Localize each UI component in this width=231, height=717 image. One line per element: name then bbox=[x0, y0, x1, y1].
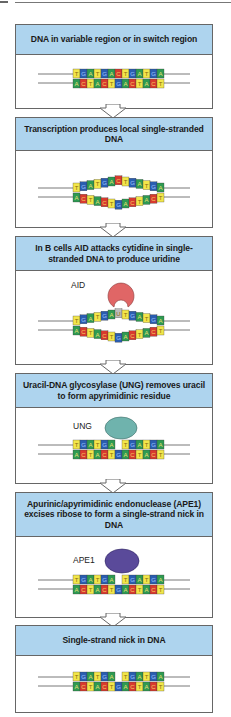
base-letter: T bbox=[124, 577, 128, 583]
base-letter: C bbox=[102, 333, 107, 339]
base-letter: A bbox=[123, 587, 127, 593]
down-arrow-3 bbox=[100, 360, 126, 374]
base-letter: A bbox=[95, 332, 99, 338]
base-letter: A bbox=[137, 442, 141, 448]
base-letter: C bbox=[130, 452, 135, 458]
base-letter: G bbox=[102, 674, 107, 680]
base-letter: T bbox=[124, 179, 128, 185]
base-letter: A bbox=[74, 587, 78, 593]
base-letter: G bbox=[102, 313, 107, 319]
step-3-title: In B cells AID attacks cytidine in singl… bbox=[16, 237, 212, 271]
base-letter: T bbox=[75, 318, 79, 324]
base-letter: T bbox=[110, 334, 114, 340]
base-letter: T bbox=[89, 197, 93, 203]
base-letter: C bbox=[81, 329, 86, 335]
base-letter: G bbox=[116, 684, 121, 690]
base-letter: T bbox=[159, 328, 163, 334]
base-letter: A bbox=[74, 684, 78, 690]
base-letter: T bbox=[75, 577, 79, 583]
base-letter: G bbox=[81, 577, 86, 583]
base-letter: A bbox=[158, 577, 162, 583]
base-letter: T bbox=[145, 674, 149, 680]
base-letter: C bbox=[81, 452, 86, 458]
dna-ape1-nick: TAGCATTAGCATGTAGCATTAGCAT bbox=[16, 537, 212, 617]
step-3-panel: In B cells AID attacks cytidine in singl… bbox=[15, 236, 213, 365]
base-letter: T bbox=[96, 181, 100, 187]
base-letter: T bbox=[96, 442, 100, 448]
base-letter: A bbox=[88, 316, 92, 322]
base-letter: T bbox=[145, 183, 149, 189]
base-letter: A bbox=[137, 181, 141, 187]
base-letter: A bbox=[144, 197, 148, 203]
base-letter: G bbox=[81, 317, 86, 323]
base-letter: T bbox=[159, 452, 163, 458]
base-letter: C bbox=[151, 329, 156, 335]
base-letter: A bbox=[144, 684, 148, 690]
base-letter: A bbox=[109, 71, 113, 77]
base-letter: G bbox=[151, 442, 156, 448]
base-letter: A bbox=[109, 577, 113, 583]
base-letter: A bbox=[158, 674, 162, 680]
base-letter: T bbox=[96, 674, 100, 680]
dna-aid-attack: TAGCATTAGCATUGTAGCATTAGCAT bbox=[16, 271, 212, 364]
base-letter: U bbox=[116, 311, 120, 317]
base-letter: G bbox=[102, 577, 107, 583]
base-letter: A bbox=[144, 587, 148, 593]
base-letter: C bbox=[102, 684, 107, 690]
base-letter: A bbox=[123, 684, 127, 690]
base-letter: G bbox=[102, 442, 107, 448]
base-letter: A bbox=[88, 183, 92, 189]
base-letter: C bbox=[102, 587, 107, 593]
base-letter: A bbox=[109, 179, 113, 185]
base-letter: A bbox=[95, 81, 99, 87]
step-6-title: Single-strand nick in DNA bbox=[16, 626, 212, 656]
base-letter: C bbox=[151, 452, 156, 458]
base-letter: C bbox=[151, 587, 156, 593]
step-1-dna: TAGCATTAGCATCGTAGCATTAGCAT bbox=[16, 55, 212, 108]
base-letter: C bbox=[151, 684, 156, 690]
base-letter: T bbox=[89, 81, 93, 87]
step-1-title: DNA in variable region or in switch regi… bbox=[16, 25, 212, 55]
base-letter: T bbox=[159, 81, 163, 87]
base-letter: T bbox=[145, 577, 149, 583]
base-letter: G bbox=[81, 442, 86, 448]
base-letter: C bbox=[81, 684, 86, 690]
base-letter: T bbox=[145, 442, 149, 448]
base-letter: A bbox=[123, 452, 127, 458]
base-letter: C bbox=[130, 684, 135, 690]
dna-transcription-bubble: TAGCATTAGCATCGTAGCATTAGCAT bbox=[16, 151, 212, 227]
base-letter: T bbox=[110, 81, 114, 87]
base-letter: C bbox=[130, 587, 135, 593]
dna-single-strand-nick: TAGCATTAGCATGTAGCATTAGCAT bbox=[16, 656, 212, 712]
base-letter: T bbox=[159, 195, 163, 201]
base-letter: G bbox=[81, 184, 86, 190]
base-letter: A bbox=[88, 674, 92, 680]
base-letter: G bbox=[102, 71, 107, 77]
base-letter: G bbox=[151, 71, 156, 77]
base-letter: G bbox=[151, 317, 156, 323]
base-letter: G bbox=[116, 202, 121, 208]
step-4-dna: UNG TAGCATTAGCATGTAGCATTAGCAT bbox=[16, 408, 212, 483]
base-letter: A bbox=[95, 452, 99, 458]
base-letter: G bbox=[151, 674, 156, 680]
base-letter: G bbox=[130, 674, 135, 680]
step-5-dna: APE1 TAGCATTAGCATGTAGCATTAGCAT bbox=[16, 537, 212, 617]
base-letter: A bbox=[137, 314, 141, 320]
base-letter: G bbox=[130, 71, 135, 77]
base-letter: A bbox=[123, 334, 127, 340]
base-letter: G bbox=[151, 577, 156, 583]
base-letter: G bbox=[102, 180, 107, 186]
base-letter: A bbox=[88, 577, 92, 583]
base-letter: A bbox=[74, 81, 78, 87]
base-letter: T bbox=[75, 71, 79, 77]
base-letter: C bbox=[102, 81, 107, 87]
base-letter: C bbox=[81, 587, 86, 593]
base-letter: G bbox=[130, 577, 135, 583]
base-letter: T bbox=[75, 185, 79, 191]
base-letter: G bbox=[116, 335, 121, 341]
base-letter: T bbox=[110, 452, 114, 458]
step-4-title: Uracil-DNA glycosylase (UNG) removes ura… bbox=[16, 374, 212, 408]
base-letter: G bbox=[130, 313, 135, 319]
base-letter: C bbox=[81, 81, 86, 87]
down-arrow-1 bbox=[100, 104, 126, 118]
